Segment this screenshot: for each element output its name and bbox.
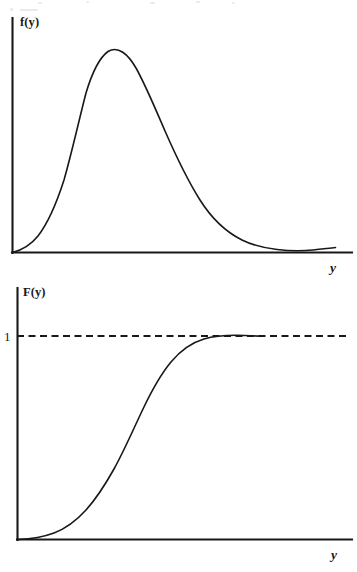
pdf-density-curve	[13, 50, 336, 253]
cdf-y-axis-label: F(y)	[23, 285, 46, 299]
figure-root: f(y) y F(y) 1 y	[0, 0, 357, 572]
probability-density-function-plot: f(y) y	[0, 0, 357, 285]
cdf-y-tick-label-one: 1	[4, 329, 11, 344]
pdf-plot-svg: f(y) y	[0, 0, 357, 285]
cumulative-distribution-function-plot: F(y) 1 y	[0, 285, 357, 572]
pdf-x-axis-label: y	[328, 260, 337, 275]
cdf-sigmoid-curve	[18, 335, 261, 539]
cdf-plot-svg: F(y) 1 y	[0, 285, 357, 572]
cdf-x-axis-label: y	[329, 547, 338, 562]
pdf-y-axis-label: f(y)	[20, 15, 39, 29]
